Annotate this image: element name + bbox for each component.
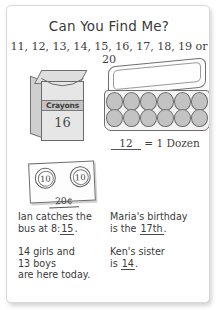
dozen-equation: 12 = 1 Dozen <box>111 137 200 150</box>
question-text: . <box>135 258 138 269</box>
question-line: 13 boys <box>18 258 110 270</box>
question-class-count: 14 girls and 13 boys are here today. <box>18 246 110 281</box>
question-maria-birthday: Maria's birthday is the 17th. <box>110 211 202 234</box>
question-line: is the 17th. <box>110 223 202 235</box>
question-line: Maria's birthday <box>110 211 202 223</box>
question-line: Ken's sister <box>110 246 202 258</box>
egg <box>106 109 123 127</box>
crayon-brand-banner: Crayons <box>42 100 83 111</box>
egg <box>191 109 208 127</box>
dozen-answer-blank[interactable]: 12 <box>111 137 141 150</box>
question-row-1: Ian catches the bus at 8:15. Maria's bir… <box>18 211 202 234</box>
coin-card: 10 10 20¢ <box>28 161 96 204</box>
crayon-box-flap <box>41 78 84 91</box>
crayon-box-illustration: Crayons 16 <box>30 70 92 144</box>
dime-coin: 10 <box>69 166 91 188</box>
egg <box>140 109 157 127</box>
question-line: are here today. <box>18 269 110 281</box>
coin-row: 10 10 <box>34 166 91 190</box>
question-text: . <box>74 223 77 234</box>
answer-blank[interactable]: 15 <box>60 223 74 235</box>
coin-total-value[interactable]: 20¢ <box>49 194 79 208</box>
crayon-count-label: 16 <box>41 115 84 130</box>
question-text: bus at 8: <box>18 223 60 234</box>
answer-blank[interactable]: 14 <box>121 258 135 270</box>
answer-blank[interactable]: 17th <box>140 223 164 235</box>
crayon-brand-label: Crayons <box>46 101 79 110</box>
question-line: Ian catches the <box>18 211 110 223</box>
page-title: Can You Find Me? <box>7 18 210 34</box>
question-text: is <box>110 258 121 269</box>
question-line: 14 girls and <box>18 246 110 258</box>
row-spacer <box>18 234 202 246</box>
egg <box>157 109 174 127</box>
question-ian-bus: Ian catches the bus at 8:15. <box>18 211 110 234</box>
dime-coin-value: 10 <box>37 170 54 187</box>
question-ken-sister: Ken's sister is 14. <box>110 246 202 281</box>
worksheet-page: Can You Find Me? 11, 12, 13, 14, 15, 16,… <box>6 5 210 303</box>
dime-coin: 10 <box>34 167 56 189</box>
egg-carton-illustration <box>104 62 210 132</box>
question-line: bus at 8:15. <box>18 223 110 235</box>
dozen-equation-text: = 1 Dozen <box>144 137 199 149</box>
question-text: is the <box>110 223 140 234</box>
egg-carton-lid <box>108 62 206 92</box>
dime-coin-value: 10 <box>72 168 89 185</box>
egg <box>174 109 191 127</box>
egg-row-bottom <box>106 109 208 127</box>
question-row-2: 14 girls and 13 boys are here today. Ken… <box>18 246 202 281</box>
question-text: . <box>164 223 167 234</box>
coin-total-row: 20¢ <box>30 187 97 209</box>
egg <box>123 109 140 127</box>
question-line: is 14. <box>110 258 202 270</box>
question-grid: Ian catches the bus at 8:15. Maria's bir… <box>18 211 202 281</box>
